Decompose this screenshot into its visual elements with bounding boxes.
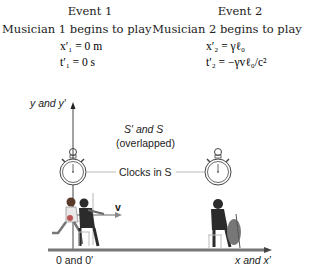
y-axis-label: y and y′ <box>30 97 66 109</box>
x-axis-label: x and x′ <box>235 254 271 266</box>
overlap-label-line2: (overlapped) <box>116 137 175 149</box>
musician-1-figures <box>52 198 104 247</box>
origin-label: 0 and 0′ <box>56 254 93 266</box>
x-axis <box>48 247 272 253</box>
velocity-label: v <box>115 201 121 213</box>
clocks-label: Clocks in S <box>119 166 172 178</box>
musician-2-cellist <box>208 199 241 248</box>
stopwatch-icon-right <box>205 149 231 186</box>
overlap-label-line1: S′ and S <box>124 123 163 135</box>
